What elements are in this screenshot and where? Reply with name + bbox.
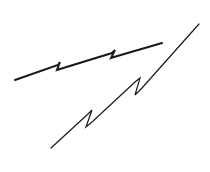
break-lines-diagram <box>0 0 210 172</box>
lower-break-line <box>51 24 199 148</box>
upper-break-line <box>15 43 162 80</box>
diagram-canvas: Two hand-drawn lines each with two Z-sha… <box>0 0 210 172</box>
